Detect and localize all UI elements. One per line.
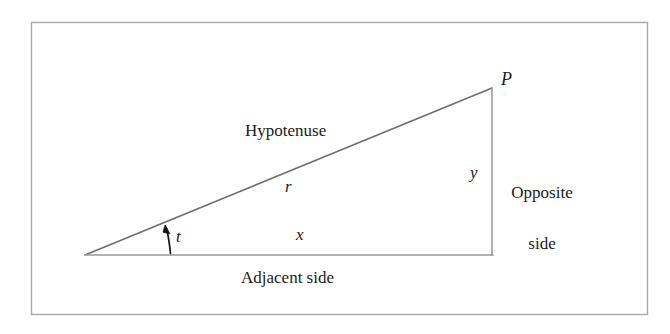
adjacent-length-label: x [296, 226, 304, 244]
trigonometry-figure: P Hypotenuse r Opposite side y x t Adjac… [0, 0, 670, 334]
opposite-length-label: y [470, 164, 478, 182]
angle-arc-arrowhead [163, 225, 170, 234]
hypotenuse-label: Hypotenuse [245, 122, 326, 140]
opposite-side-label: Opposite side [504, 150, 580, 286]
radius-label: r [285, 178, 292, 196]
point-p-label: P [501, 70, 512, 89]
opposite-side-label-line1: Opposite [504, 184, 580, 202]
opposite-side-label-line2: side [504, 235, 580, 253]
hypotenuse-line [85, 88, 492, 255]
adjacent-side-label: Adjacent side [241, 269, 334, 287]
angle-label: t [176, 228, 181, 246]
